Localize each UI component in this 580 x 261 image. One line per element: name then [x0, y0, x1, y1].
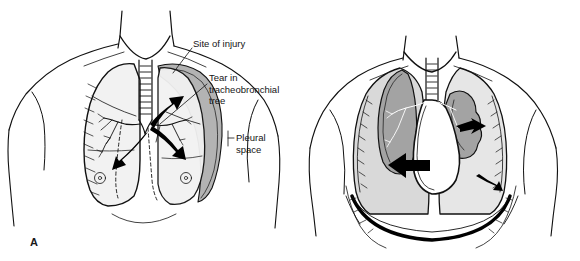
panel-label-a: A [30, 236, 38, 248]
figure-root: A Site of injury Tear in tracheobronchia… [0, 0, 580, 261]
panel-b: B [290, 0, 580, 261]
trachea [139, 60, 152, 134]
callout-tear-in-tracheobronchial-tree: Tear in tracheobronchial tree [209, 72, 279, 107]
panel-a: A Site of injury Tear in tracheobronchia… [0, 0, 290, 261]
callout-pleural-space: Pleural space [236, 132, 266, 155]
callout-site-of-injury: Site of injury [193, 38, 245, 50]
panel-a-illustration [0, 0, 290, 261]
panel-b-illustration [290, 0, 580, 261]
